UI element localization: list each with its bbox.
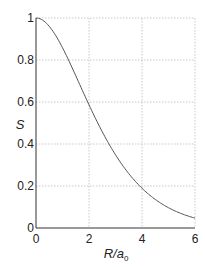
y-tick-label: 0.8 <box>17 53 34 67</box>
y-tick-label: 0.6 <box>17 95 34 109</box>
x-tick-label: 2 <box>86 232 93 246</box>
y-axis-label: S <box>16 117 25 132</box>
y-tick-label: 1 <box>27 11 34 25</box>
y-tick-label: 0.4 <box>17 137 34 151</box>
y-tick-label: 0.2 <box>17 179 34 193</box>
x-tick-label: 4 <box>139 232 146 246</box>
x-axis-label: R/a0 <box>104 246 129 263</box>
y-tick-label: 0 <box>27 221 34 235</box>
tick-labels: 024600.20.40.60.81 <box>17 11 198 246</box>
grid-lines <box>36 18 195 228</box>
axes <box>36 18 195 228</box>
data-series-line <box>36 18 195 218</box>
overlap-integral-chart: 024600.20.40.60.81 S R/a0 <box>0 0 205 267</box>
x-tick-label: 6 <box>192 232 199 246</box>
